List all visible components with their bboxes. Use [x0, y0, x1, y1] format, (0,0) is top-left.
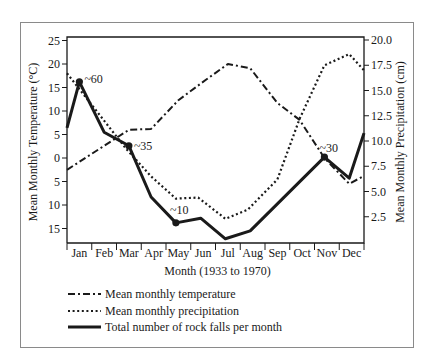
month-label: Jul	[221, 246, 236, 260]
legend: Mean monthly temperatureMean monthly pre…	[68, 287, 282, 334]
left-tick-label: 15	[48, 81, 60, 95]
left-tick-label: 5	[54, 175, 60, 189]
left-tick-label: 5	[54, 128, 60, 142]
month-label: May	[167, 246, 189, 260]
right-tick-label: 12.5	[371, 109, 392, 123]
temperature-line	[67, 64, 364, 184]
month-label: Aug	[242, 246, 263, 260]
left-tick-label: 10	[48, 104, 60, 118]
data-point-marker	[172, 219, 179, 226]
data-point-annotation: ~30	[319, 141, 338, 155]
left-tick-label: 0	[54, 151, 60, 165]
plot-border	[67, 37, 364, 243]
right-tick-label: 10.0	[371, 134, 392, 148]
month-label: Feb	[95, 246, 113, 260]
chart: 25201510505101520.017.515.012.510.07.55.…	[0, 0, 436, 364]
month-label: Dec	[342, 246, 361, 260]
legend-label: Total number of rock falls per month	[105, 320, 282, 334]
month-label: Jun	[195, 246, 212, 260]
month-label: Nov	[317, 246, 338, 260]
left-tick-label: 20	[48, 57, 60, 71]
right-tick-label: 20.0	[371, 33, 392, 47]
x-axis-title: Month (1933 to 1970)	[164, 264, 270, 278]
month-label: Sep	[268, 246, 286, 260]
month-label: Jan	[71, 246, 87, 260]
rockfalls-line	[67, 82, 364, 239]
axes: 25201510505101520.017.515.012.510.07.55.…	[26, 33, 407, 278]
left-axis-title: Mean Monthly Temperature (°C)	[26, 63, 40, 222]
right-axis-title: Mean Monthly Precipitation (cm)	[393, 61, 407, 223]
data-point-marker	[76, 78, 83, 85]
left-tick-label: 10	[48, 198, 60, 212]
left-tick-label: 25	[48, 34, 60, 48]
month-label: Oct	[293, 246, 311, 260]
data-point-annotation: ~35	[134, 139, 153, 153]
left-tick-label: 15	[48, 222, 60, 236]
legend-label: Mean monthly temperature	[105, 287, 236, 301]
data-point-annotation: ~60	[84, 72, 103, 86]
data-point-marker	[125, 142, 132, 149]
right-tick-label: 7.5	[371, 159, 386, 173]
right-tick-label: 2.5	[371, 210, 386, 224]
data-point-annotation: ~10	[170, 203, 189, 217]
right-tick-label: 5.0	[371, 185, 386, 199]
right-tick-label: 17.5	[371, 58, 392, 72]
legend-label: Mean monthly precipitation	[105, 304, 239, 318]
month-label: Apr	[144, 246, 163, 260]
month-label: Mar	[119, 246, 139, 260]
right-tick-label: 15.0	[371, 84, 392, 98]
